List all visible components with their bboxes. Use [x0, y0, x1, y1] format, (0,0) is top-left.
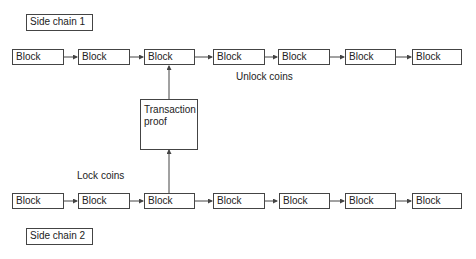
block-label: Block [217, 51, 241, 62]
connector-layer [0, 0, 476, 259]
block-label: Block [16, 51, 40, 62]
block-label: Block [217, 195, 241, 206]
side-chain-1-text: Side chain 1 [30, 16, 85, 27]
block-label: Block [16, 195, 40, 206]
block-label: Block [148, 51, 172, 62]
side-chain-2-label: Side chain 2 [26, 228, 93, 245]
transaction-proof-text: Transaction proof [144, 104, 196, 127]
block-label: Block [148, 195, 172, 206]
block-label: Block [349, 51, 373, 62]
bottom-block-5: Block [279, 193, 330, 209]
bottom-block-2: Block [78, 193, 130, 209]
block-label: Block [283, 195, 307, 206]
side-chain-1-label: Side chain 1 [26, 14, 93, 31]
block-label: Block [416, 195, 440, 206]
bottom-block-4: Block [213, 193, 265, 209]
bottom-block-7: Block [412, 193, 462, 209]
bottom-block-1: Block [12, 193, 64, 209]
block-label: Block [349, 195, 373, 206]
block-label: Block [82, 195, 106, 206]
top-block-1: Block [12, 49, 64, 65]
top-block-6: Block [345, 49, 396, 65]
top-block-4: Block [213, 49, 265, 65]
top-block-2: Block [78, 49, 130, 65]
top-block-3: Block [144, 49, 195, 65]
block-label: Block [282, 51, 306, 62]
top-block-5: Block [278, 49, 330, 65]
lock-coins-label: Lock coins [77, 170, 124, 181]
bottom-block-6: Block [345, 193, 396, 209]
side-chain-2-text: Side chain 2 [30, 230, 85, 241]
transaction-proof-box: Transaction proof [140, 99, 198, 150]
block-label: Block [416, 51, 440, 62]
unlock-coins-label: Unlock coins [236, 71, 293, 82]
block-label: Block [82, 51, 106, 62]
bottom-block-3: Block [144, 193, 195, 209]
top-block-7: Block [412, 49, 462, 65]
